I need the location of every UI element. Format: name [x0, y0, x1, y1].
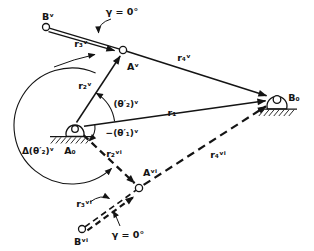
vector-r3-vi — [87, 197, 133, 231]
r3vi-leader-arrow — [90, 197, 110, 202]
ground-pivot-A0 — [50, 125, 92, 144]
label-joint-B-v: Bᵛ — [42, 11, 54, 22]
label-vector-r4-vi: r₄ᵛⁱ — [210, 149, 226, 160]
joint-B-v — [43, 24, 50, 31]
label-joint-A0: A₀ — [64, 145, 76, 156]
vector-r4-v — [127, 51, 267, 96]
label-joint-A-v: Aᵛ — [127, 61, 139, 72]
coupler-link-vi — [85, 190, 136, 227]
label-joint-B0: B₀ — [288, 92, 299, 103]
linkage-diagram-canvas: γ = 0° Bᵛ r₃ᵛ Aᵛ r₄ᵛ B₀ r₂ᵛ (θ′₂)ᵛ r₁ −(… — [0, 0, 314, 251]
label-vector-r1: r₁ — [168, 107, 177, 118]
pin-A0 — [72, 126, 79, 133]
label-gamma-bottom: γ = 0° — [112, 229, 144, 240]
label-vector-r2-vi: r₂ᵛⁱ — [106, 148, 122, 159]
label-joint-A-vi: Aᵛⁱ — [143, 167, 157, 178]
label-vector-r3-vi: r₃ᵛⁱ — [76, 198, 92, 209]
label-gamma-top: γ = 0° — [106, 6, 138, 17]
label-angle-neg-theta1-v: −(θ′₁)ᵛ — [106, 128, 139, 138]
label-angle-theta2-v: (θ′₂)ᵛ — [113, 99, 139, 109]
vector-r2-vi — [83, 135, 134, 183]
joint-B-vi — [79, 226, 86, 233]
ground-hatching-B0 — [259, 110, 294, 116]
label-vector-r4-v: r₄ᵛ — [177, 52, 191, 63]
coupler-angle-leader-arrow — [54, 55, 95, 68]
pin-B0 — [273, 96, 281, 104]
label-vector-r3-v: r₃ᵛ — [74, 38, 88, 49]
label-joint-B-vi: Bᵛⁱ — [74, 236, 88, 247]
rotation-arc-delta-theta2 — [14, 68, 112, 184]
gamma-bottom-leader-arrow — [113, 211, 120, 226]
label-angle-delta-theta2-v: Δ(θ′₂)ᵛ — [22, 146, 55, 156]
ground-hatching-A0 — [51, 137, 91, 143]
linkage-synthesis-figure: γ = 0° Bᵛ r₃ᵛ Aᵛ r₄ᵛ B₀ r₂ᵛ (θ′₂)ᵛ r₁ −(… — [0, 0, 314, 251]
vector-r4-vi — [144, 106, 266, 185]
joint-A-v — [119, 46, 126, 53]
label-vector-r2-v: r₂ᵛ — [78, 80, 92, 91]
angle-arc-theta2 — [96, 93, 114, 121]
gamma-top-leader-arrow — [98, 19, 111, 33]
joint-A-vi — [135, 184, 142, 191]
